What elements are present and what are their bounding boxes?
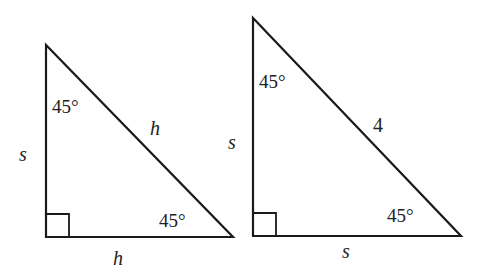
left-bottom-right-angle-label: 45° xyxy=(159,210,186,231)
right-hypotenuse-label: 4 xyxy=(373,114,383,136)
left-triangle: 45° 45° s h h xyxy=(19,45,233,269)
left-triangle-outline xyxy=(46,45,233,237)
left-horizontal-side-label: h xyxy=(113,247,123,269)
left-right-angle-marker xyxy=(46,214,69,237)
left-top-angle-label: 45° xyxy=(52,96,79,117)
left-vertical-side-label: s xyxy=(19,143,27,165)
right-top-angle-label: 45° xyxy=(259,71,286,92)
right-triangle-outline xyxy=(253,18,461,236)
right-triangle: 45° 45° s 4 s xyxy=(228,18,461,262)
right-horizontal-side-label: s xyxy=(342,240,350,262)
left-hypotenuse-label: h xyxy=(150,117,160,139)
right-vertical-side-label: s xyxy=(228,131,236,153)
right-right-angle-marker xyxy=(253,213,276,236)
triangle-diagram: 45° 45° s h h 45° 45° s 4 s xyxy=(0,0,484,276)
right-bottom-right-angle-label: 45° xyxy=(387,205,414,226)
